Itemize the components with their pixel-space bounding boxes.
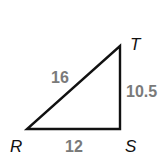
triangle-rst [27, 46, 120, 129]
vertex-label-r: R [10, 137, 22, 155]
triangle-diagram: T R S 16 10.5 12 [0, 0, 167, 155]
vertex-label-t: T [130, 35, 142, 54]
side-label-st: 10.5 [126, 83, 157, 100]
side-label-rs: 12 [65, 138, 83, 155]
vertex-label-s: S [125, 137, 137, 155]
side-label-rt: 16 [51, 69, 69, 86]
